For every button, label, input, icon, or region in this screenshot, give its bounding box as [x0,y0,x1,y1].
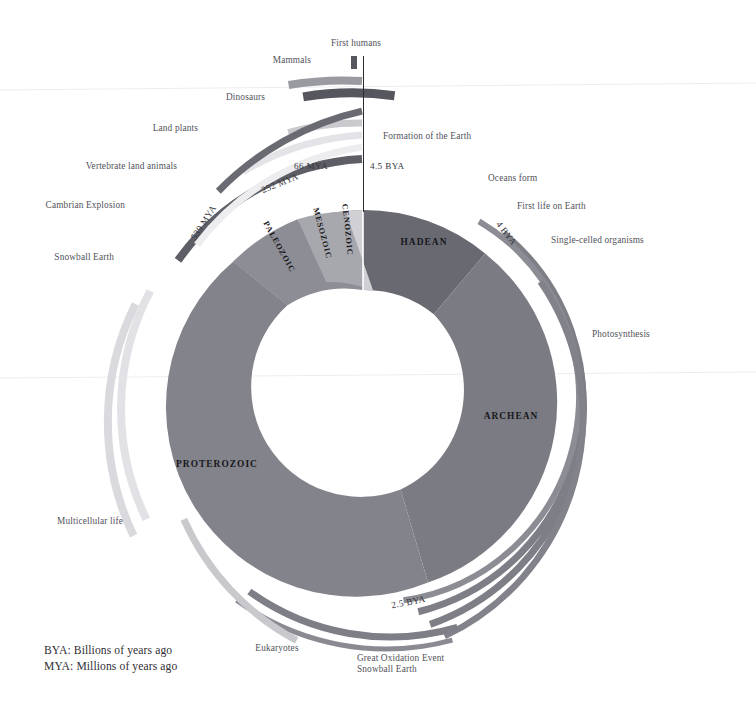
event-label-first-humans: First humans [331,38,381,48]
legend-line-mya: MYA: Millions of years ago [44,660,177,673]
event-arc-mammals[interactable] [289,80,362,85]
event-label-snowball-earth-left: Snowball Earth [54,252,114,262]
event-arc-first-humans[interactable] [351,56,357,69]
legend-line-bya: BYA: Billions of years ago [44,644,172,657]
event-label-land-plants: Land plants [153,123,199,133]
eon-label-archean: ARCHEAN [484,411,539,421]
timeline-svg: 4.5 BYA 66 MYA 252 MYA 539 MYA 4 BYA 2.5… [0,0,756,703]
tick-label-66-mya: 66 MYA [294,161,328,171]
event-label-mammals: Mammals [273,55,311,65]
eon-slice-proterozoic[interactable] [166,262,428,597]
event-label-eukaryotes: Eukaryotes [255,643,299,653]
event-label-single-celled-organisms: Single-celled organisms [551,235,644,245]
event-label-formation-of-the-earth: Formation of the Earth [383,131,471,141]
event-label-oceans-form: Oceans form [488,173,538,183]
eon-label-proterozoic: PROTEROZOIC [176,459,258,469]
faint-rule-top [0,83,756,90]
tick-label-4-5-bya: 4.5 BYA [370,161,405,171]
event-label-first-life-on-earth: First life on Earth [517,201,586,211]
event-arc-dinosaurs[interactable] [303,93,394,97]
event-label-snowball-earth-bottom: Snowball Earth [357,664,417,674]
event-label-great-oxidation-event: Great Oxidation Event [357,653,445,663]
event-label-multicellular-life: Multicellular life [57,516,123,526]
event-label-vertebrate-land-animals: Vertebrate land animals [86,161,177,171]
eon-label-hadean: HADEAN [401,237,448,247]
event-label-photosynthesis: Photosynthesis [592,329,650,339]
event-label-dinosaurs: Dinosaurs [226,92,265,102]
event-label-cambrian-explosion: Cambrian Explosion [46,200,126,210]
legend: BYA: Billions of years ago MYA: Millions… [44,644,177,673]
geologic-time-spiral-chart: 4.5 BYA 66 MYA 252 MYA 539 MYA 4 BYA 2.5… [0,0,756,703]
